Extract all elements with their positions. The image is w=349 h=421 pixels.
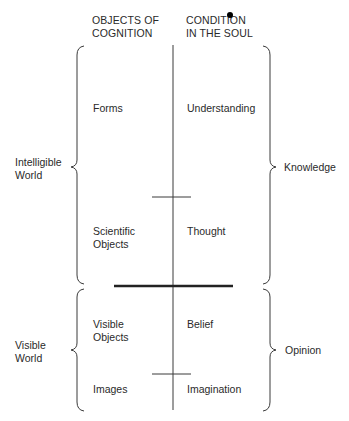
object-forms-text: Forms (93, 102, 123, 115)
object-images-text: Images (93, 383, 127, 396)
condition-belief: Belief (187, 318, 213, 331)
object-images: Images (93, 383, 127, 396)
label-opinion: Opinion (285, 344, 321, 357)
label-knowledge: Knowledge (284, 161, 336, 174)
object-scientific-objects: Scientific Objects (93, 225, 135, 251)
brace-visible-world (71, 289, 84, 411)
object-scientific-line1: Scientific (93, 225, 135, 238)
label-intelligible-world: Intelligible World (15, 156, 62, 182)
condition-thought: Thought (187, 225, 226, 238)
object-visible-objects: Visible Objects (93, 318, 129, 344)
condition-understanding: Understanding (187, 102, 255, 115)
brace-intelligible-world (71, 46, 84, 284)
object-scientific-line2: Objects (93, 238, 135, 251)
brace-opinion (263, 289, 276, 411)
brace-knowledge (263, 46, 276, 284)
label-visible-line2: World (15, 352, 46, 365)
object-visible-line1: Visible (93, 318, 129, 331)
label-intelligible-line2: World (15, 169, 62, 182)
object-forms: Forms (93, 102, 123, 115)
object-visible-line2: Objects (93, 331, 129, 344)
label-visible-line1: Visible (15, 339, 46, 352)
condition-imagination: Imagination (187, 383, 241, 396)
divided-line-diagram (0, 0, 349, 421)
label-visible-world: Visible World (15, 339, 46, 365)
label-intelligible-line1: Intelligible (15, 156, 62, 169)
